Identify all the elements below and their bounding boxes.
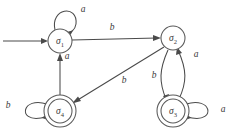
state-node-s2[interactable]: σ2 (161, 26, 185, 50)
edge-label-s1-self: a (81, 4, 86, 14)
state-node-s4[interactable]: σ4 (44, 95, 76, 127)
state-node-s3[interactable]: σ3 (157, 95, 189, 127)
transition-s2-s3-b: b (152, 50, 169, 102)
edge-label-s2-s3: b (152, 70, 157, 80)
edge-label-s3-self: a (221, 104, 226, 114)
transition-s4-s1-a: a (57, 51, 70, 96)
transition-s3-self-a: a (185, 102, 226, 120)
state-node-s1[interactable]: σ1 (48, 29, 72, 53)
initial-start-arrow (3, 38, 48, 44)
automaton-canvas: a b b a b b (0, 0, 232, 133)
transition-s2-s4-b: b (72, 47, 164, 104)
edge-label-s2-s4: b (122, 75, 127, 85)
edge-label-s3-s2: a (194, 49, 199, 59)
edge-label-s4-self: b (6, 100, 11, 110)
edge-label-s1-s2: b (110, 22, 115, 32)
transition-s3-s2-a: a (176, 47, 199, 99)
automaton-diagram: a b b a b b (0, 0, 232, 133)
edge-label-s4-s1: a (65, 51, 70, 61)
transition-s4-self-b: b (6, 100, 48, 120)
transition-s1-s2-b: b (72, 22, 161, 41)
